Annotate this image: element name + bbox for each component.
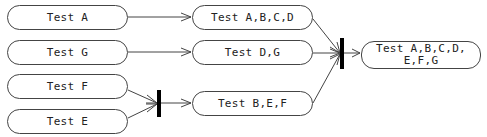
node-test-g[interactable]: Test G	[7, 40, 128, 65]
node-label: Test E	[47, 116, 89, 128]
node-label: Test F	[47, 81, 89, 93]
node-label: Test D,G	[225, 47, 280, 59]
node-label-line2: E,F,G	[404, 55, 439, 67]
join-bar-all	[340, 38, 344, 69]
node-test-bef[interactable]: Test B,E,F	[192, 91, 313, 116]
node-test-all[interactable]: Test A,B,C,D, E,F,G	[361, 41, 481, 69]
node-label: Test A,B,C,D	[211, 12, 294, 24]
node-test-f[interactable]: Test F	[7, 74, 128, 99]
node-label: Test A	[47, 12, 89, 24]
node-label: Test G	[47, 47, 89, 59]
node-test-e[interactable]: Test E	[7, 109, 128, 134]
node-test-dg[interactable]: Test D,G	[192, 40, 313, 65]
join-bar-fe	[157, 90, 161, 117]
node-test-abcd[interactable]: Test A,B,C,D	[192, 5, 313, 30]
node-label: Test B,E,F	[218, 98, 287, 110]
node-test-a[interactable]: Test A	[7, 5, 128, 30]
